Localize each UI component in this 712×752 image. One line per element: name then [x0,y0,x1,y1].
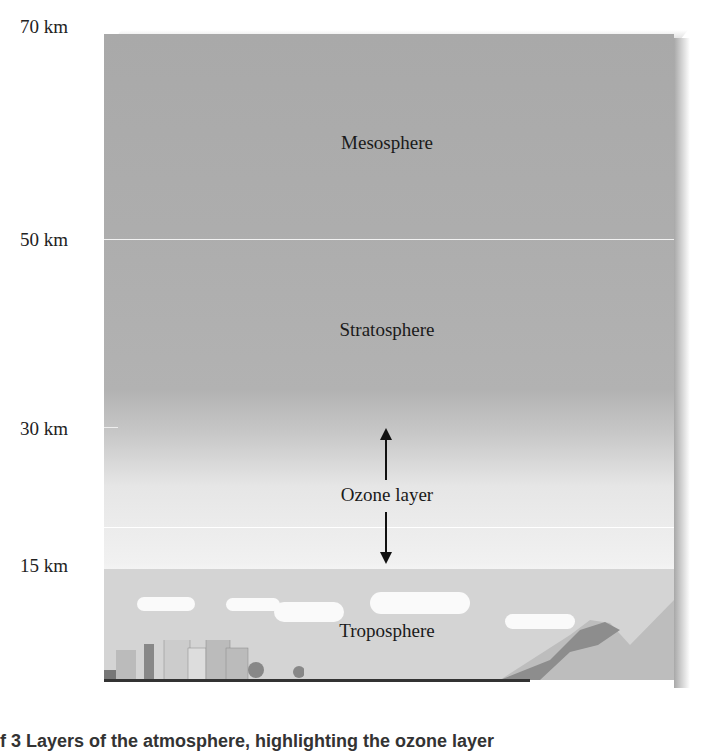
cloud-icon [137,597,195,611]
boundary-50km [104,239,674,240]
altitude-label-70km: 70 km [20,16,68,38]
figure-caption: f 3 Layers of the atmosphere, highlighti… [0,731,494,752]
altitude-label-30km: 30 km [20,418,68,440]
layer-mesosphere: Mesosphere [341,132,433,154]
arrow-up-line [385,436,387,480]
tick-30km [104,427,118,428]
layer-troposphere: Troposphere [339,620,434,642]
ozone-lower-boundary [104,527,674,528]
altitude-label-15km: 15 km [20,555,68,577]
cloud-icon [226,598,280,611]
arrow-down-line [385,512,387,556]
ground-line [300,679,530,682]
altitude-label-50km: 50 km [20,229,68,251]
layer-stratosphere: Stratosphere [340,319,435,341]
mountains-icon [460,590,690,690]
layer-ozone: Ozone layer [341,484,433,506]
arrow-up-icon [380,428,392,440]
cloud-icon [370,592,470,614]
city-skyline-icon [104,640,304,682]
cloud-icon [274,602,344,622]
arrow-down-icon [380,552,392,564]
